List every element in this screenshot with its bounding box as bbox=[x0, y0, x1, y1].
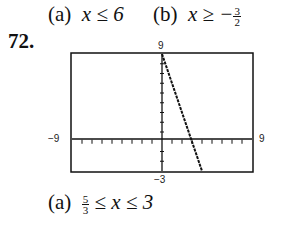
answer-a-label: (a) bbox=[48, 190, 71, 214]
frac-den: 3 bbox=[82, 205, 90, 215]
answer-fraction: 53 bbox=[82, 194, 90, 215]
plot-line bbox=[162, 54, 202, 171]
answer-line: (a) 53 ≤ x ≤ 3 bbox=[48, 190, 153, 215]
answer-expr: ≤ x ≤ 3 bbox=[95, 190, 154, 214]
